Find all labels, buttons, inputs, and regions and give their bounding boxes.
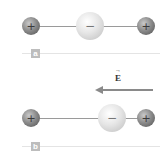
positive-charge-right: + <box>137 109 155 127</box>
panel-b-baseline <box>22 146 160 147</box>
minus-icon: − <box>107 112 117 124</box>
negative-charge-shifted: − <box>98 104 126 132</box>
panel-label-a: a <box>31 49 40 58</box>
plus-icon: + <box>26 113 35 124</box>
panel-label-b: b <box>31 142 40 151</box>
vector-mark: → <box>115 67 121 73</box>
molecule-bond <box>30 118 146 119</box>
plus-icon: + <box>141 21 150 32</box>
plus-icon: + <box>26 21 35 32</box>
panel-a-baseline <box>22 53 160 54</box>
plus-icon: + <box>141 113 150 124</box>
positive-charge-right: + <box>137 17 155 35</box>
positive-charge-left: + <box>22 17 40 35</box>
electric-field-arrow <box>101 89 153 91</box>
field-label: → E <box>115 73 121 83</box>
minus-icon: − <box>85 20 95 32</box>
negative-charge-center: − <box>76 12 104 40</box>
positive-charge-left: + <box>22 109 40 127</box>
